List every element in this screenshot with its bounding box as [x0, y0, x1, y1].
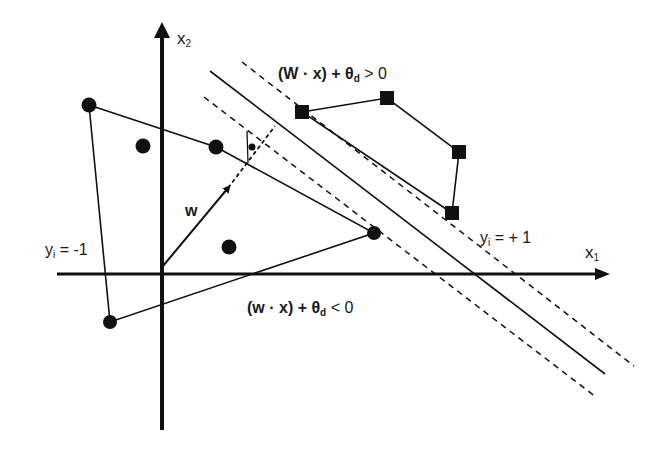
positive-point: [295, 105, 309, 119]
x1-axis-label: x1: [585, 244, 599, 263]
negative-point: [367, 226, 381, 240]
negative-point: [209, 140, 224, 155]
negative-point: [222, 240, 237, 255]
w-vector: [163, 188, 228, 266]
negative-inequality-label: (w · x) + θd < 0: [247, 300, 353, 318]
negative-point: [82, 98, 97, 113]
negative-point: [103, 315, 117, 329]
x2-axis-label: x2: [177, 30, 191, 49]
w-vector-label: w: [185, 203, 197, 219]
angle-dot: [249, 144, 256, 151]
x2-axis-arrow-icon: [154, 22, 170, 38]
negative-point: [136, 139, 151, 154]
positive-hull: [302, 98, 459, 213]
separating-hyperplane: [210, 71, 605, 374]
positive-point: [445, 206, 459, 220]
x1-axis-arrow-icon: [595, 268, 610, 280]
negative-hull: [89, 105, 374, 322]
positive-point: [380, 91, 394, 105]
right-angle-marker: [247, 131, 248, 163]
positive-class-label: yi = + 1: [480, 230, 531, 248]
negative-class-label: yi = -1: [45, 242, 88, 260]
positive-inequality-label: (W · x) + θd > 0: [278, 66, 387, 84]
positive-point: [452, 145, 466, 159]
